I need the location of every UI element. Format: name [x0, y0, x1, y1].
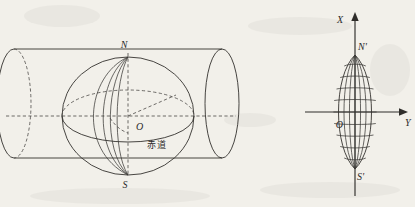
cylinder-left-cap-back [14, 49, 31, 158]
diagram-canvas: N S O 赤道 [0, 0, 415, 207]
meridian-hidden-segment [110, 118, 128, 133]
panel-projection-graticule: X Y N' S' O [305, 12, 412, 196]
cylinder-right-cap [205, 49, 239, 158]
y-axis-arrowhead [399, 108, 408, 115]
label-y-axis: Y [405, 117, 412, 128]
label-south-pole: S [123, 179, 128, 190]
label-south-pole-prime: S' [357, 171, 365, 182]
cylinder-left-cap-front [0, 49, 14, 158]
equator-radius-dashed [128, 95, 176, 116]
label-center-o: O [136, 121, 143, 132]
label-x-axis: X [336, 14, 344, 25]
label-equator: 赤道 [147, 139, 166, 150]
panel-sphere-in-cylinder: N S O 赤道 [0, 39, 239, 190]
label-origin-o: O [336, 119, 343, 130]
x-axis-arrowhead [351, 12, 358, 21]
label-north-pole-prime: N' [357, 41, 368, 52]
label-north-pole: N [120, 39, 129, 50]
figure-root: N S O 赤道 [0, 0, 415, 207]
